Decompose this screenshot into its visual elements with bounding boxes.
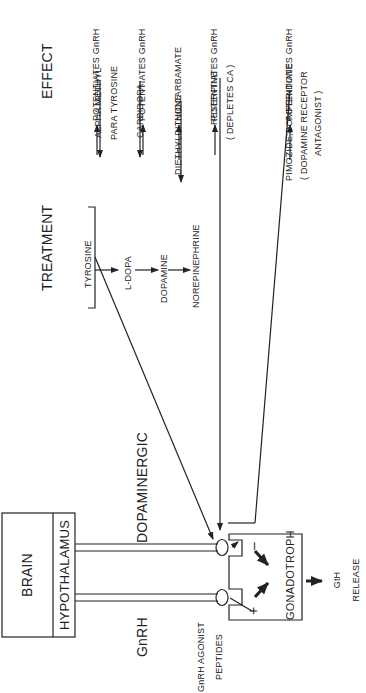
gth-label: GtH [333, 560, 342, 600]
effect-4: POTENTIATES GnRH [210, 28, 219, 121]
dopaminergic-label: DOPAMINERGIC [135, 432, 149, 543]
treatment-1-line2: PARA TYROSINE [110, 66, 119, 140]
treatment-4-line2: ( DEPLETES CA ) [226, 64, 235, 140]
l-dopa-label: L-DOPA [124, 256, 133, 290]
norepinephrine-label: NOREPINEPHRINE [192, 224, 201, 308]
hypothalamus-label: HYPOTHALAMUS [58, 513, 71, 637]
peptides-label: PEPTIDES [215, 621, 224, 693]
plus-sign: + [246, 607, 260, 615]
dopamine-label: DOPAMINE [160, 254, 169, 303]
diagram-canvas: TREATMENT EFFECT BRAIN HYPOTHALAMUS GnRH… [0, 0, 366, 693]
treatment-header: TREATMENT [40, 205, 54, 291]
effect-2: POTENTIATES GnRH [138, 28, 147, 121]
gonadotroph-label: GONADOTROPH [285, 534, 296, 620]
treatment-5-line2: ( DOPAMINE RECEPTOR [300, 71, 309, 180]
diagram-lines [0, 0, 366, 693]
effect-1: POTENTIATES GnRH [92, 28, 101, 121]
treatment-5-line3: ANTAGONIST ) [314, 90, 323, 156]
tyrosine-label: TYROSINE [84, 240, 93, 288]
effect-5: POTENTIATES GnRH [285, 28, 294, 121]
gnrh-agonist-label: GnRH AGONIST [197, 621, 206, 693]
minus-sign: – [246, 542, 260, 550]
gnrh-label: GnRH [135, 617, 149, 657]
effect-header: EFFECT [40, 43, 54, 99]
effect-3: NONE [174, 94, 183, 121]
release-label: RELEASE [352, 552, 361, 608]
brain-label: BRAIN [20, 513, 34, 637]
